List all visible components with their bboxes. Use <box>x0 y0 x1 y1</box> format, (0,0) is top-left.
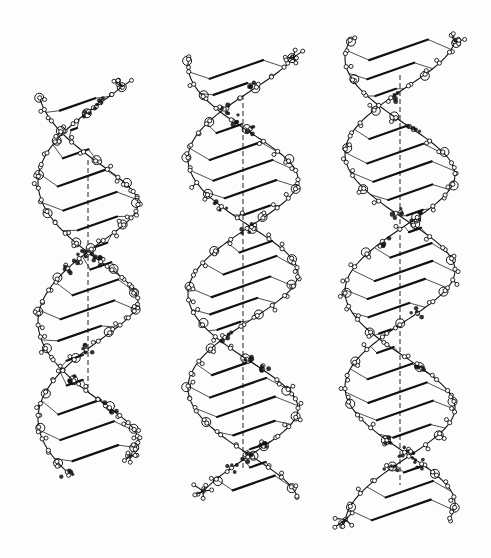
atom <box>261 139 265 143</box>
atom <box>51 358 55 362</box>
atom <box>45 151 49 155</box>
atom <box>372 201 376 205</box>
atom <box>452 495 456 499</box>
atom <box>125 215 129 219</box>
atom <box>49 119 53 123</box>
atom <box>349 263 353 267</box>
atom <box>254 85 258 89</box>
atom <box>96 339 100 343</box>
atom <box>74 119 78 123</box>
atom <box>365 347 369 351</box>
base-pair <box>369 126 407 139</box>
atom <box>200 323 204 327</box>
base-pair <box>60 421 114 440</box>
atom <box>188 168 192 172</box>
atom <box>446 388 450 392</box>
atom <box>109 164 113 168</box>
atom <box>296 406 300 410</box>
atom <box>343 51 347 55</box>
atom <box>434 473 438 477</box>
atom <box>443 289 447 293</box>
atom <box>287 159 291 163</box>
atom <box>225 470 229 474</box>
atom <box>450 406 454 410</box>
atom <box>37 311 41 315</box>
atom <box>186 384 190 388</box>
atom <box>451 278 455 282</box>
atom <box>208 347 212 351</box>
atom <box>134 209 138 213</box>
base-pair <box>390 243 431 257</box>
atom <box>40 326 44 330</box>
atom <box>441 246 445 250</box>
atom <box>189 371 193 375</box>
atom <box>197 359 201 363</box>
atom <box>365 252 369 256</box>
atom <box>275 378 279 382</box>
atom <box>110 268 114 272</box>
atom <box>215 430 219 434</box>
atom <box>112 230 116 234</box>
atom <box>188 396 192 400</box>
atom <box>115 179 119 183</box>
atom <box>453 171 457 175</box>
atom <box>377 199 381 203</box>
atom <box>239 324 243 328</box>
atom <box>377 103 381 107</box>
atom <box>299 401 303 405</box>
atom <box>448 516 452 520</box>
atom <box>444 480 448 484</box>
atom <box>205 193 209 197</box>
dna-helix-middle <box>182 48 305 500</box>
atom <box>229 237 233 241</box>
atom <box>110 92 114 96</box>
atom <box>96 397 100 401</box>
atom <box>346 395 350 399</box>
atom <box>118 323 122 327</box>
atom <box>234 444 238 448</box>
atom <box>344 65 348 69</box>
atom <box>294 168 298 172</box>
atom <box>294 484 298 488</box>
atom <box>350 78 354 82</box>
atom <box>191 287 195 291</box>
atom <box>423 443 427 447</box>
atom <box>407 454 411 458</box>
atom <box>343 387 347 391</box>
atom <box>362 91 366 95</box>
atom <box>343 147 347 151</box>
atom <box>138 436 142 440</box>
atom <box>43 97 47 101</box>
atom <box>280 242 284 246</box>
base-pair <box>73 279 118 295</box>
base-pair <box>369 40 428 61</box>
base-pair <box>375 261 432 281</box>
base-pair <box>240 241 273 252</box>
atom <box>295 266 299 270</box>
atom <box>54 134 58 138</box>
atom <box>46 448 50 452</box>
atom <box>369 426 373 430</box>
atom <box>105 264 109 268</box>
atom <box>122 223 126 227</box>
base-pair <box>373 161 431 181</box>
atom <box>347 304 351 308</box>
atom <box>201 261 205 265</box>
atom <box>186 298 190 302</box>
atom <box>36 186 40 190</box>
atom <box>272 153 276 157</box>
atom <box>406 84 410 88</box>
atom <box>131 189 135 193</box>
atom <box>291 384 295 388</box>
base-pair <box>71 128 77 130</box>
atom <box>53 140 57 144</box>
atom <box>442 436 446 440</box>
atom <box>358 491 362 495</box>
atom <box>431 470 435 474</box>
atom <box>347 400 351 404</box>
atom <box>84 388 88 392</box>
atom <box>428 234 432 238</box>
atom <box>136 296 140 300</box>
atom <box>228 346 232 350</box>
base-pair <box>58 326 101 341</box>
